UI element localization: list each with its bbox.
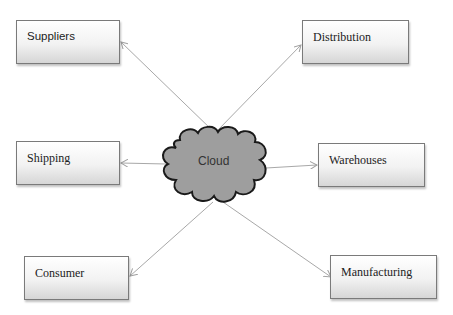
cloud-label: Cloud xyxy=(198,154,229,168)
node-suppliers-label: Suppliers xyxy=(27,30,75,42)
node-suppliers: Suppliers xyxy=(16,20,120,64)
node-warehouses: Warehouses xyxy=(318,143,425,187)
node-manufacturing: Manufacturing xyxy=(330,255,437,299)
edge-to-warehouses xyxy=(266,165,317,168)
node-distribution-label: Distribution xyxy=(313,30,371,45)
node-distribution: Distribution xyxy=(302,20,409,64)
node-consumer: Consumer xyxy=(24,256,129,300)
edge-to-suppliers xyxy=(121,42,214,132)
edge-to-manufacturing xyxy=(223,202,331,277)
edge-to-shipping xyxy=(121,163,166,164)
edge-to-distribution xyxy=(216,45,301,132)
node-shipping-label: Shipping xyxy=(27,151,70,166)
node-shipping: Shipping xyxy=(16,141,120,185)
edge-to-consumer xyxy=(130,202,213,276)
node-manufacturing-label: Manufacturing xyxy=(341,265,412,280)
node-consumer-label: Consumer xyxy=(35,266,84,281)
node-warehouses-label: Warehouses xyxy=(329,153,387,168)
